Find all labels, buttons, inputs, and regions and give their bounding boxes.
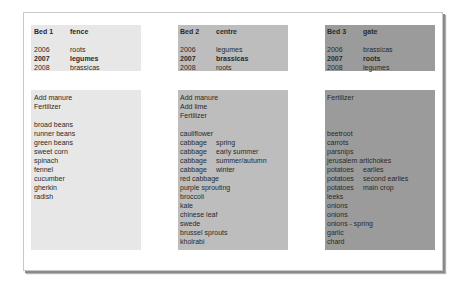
plant-item: swede xyxy=(180,219,288,228)
rotation-row: 2008roots xyxy=(180,63,288,72)
bed-1-header: Bed 1fence 2006roots 2007legumes 2008bra… xyxy=(31,25,141,71)
plant-item: parsnips xyxy=(327,147,435,156)
bed-3-location: gate xyxy=(363,27,377,36)
plant-item: potatoesmain crop xyxy=(327,183,435,192)
plant-item: beetroot xyxy=(327,129,435,138)
plant-item: green beans xyxy=(34,138,141,147)
bed-1-location: fence xyxy=(70,27,88,36)
prep-item: Add lime xyxy=(180,102,288,111)
prep-item: Fertilizer xyxy=(180,111,288,120)
bed-2-title-row: Bed 2centre xyxy=(180,27,288,36)
plant-item: cabbagespring xyxy=(180,138,288,147)
plant-item: leeks xyxy=(327,192,435,201)
plant-item: chard xyxy=(327,237,435,246)
plant-item: onions - spring xyxy=(327,219,435,228)
rotation-row: 2008brassicas xyxy=(34,63,141,72)
rotation-row-current: 2007legumes xyxy=(34,54,141,63)
plant-item: purple sprouting xyxy=(180,183,288,192)
prep-item: Add manure xyxy=(180,93,288,102)
plant-item: cabbagewinter xyxy=(180,165,288,174)
bed-3-name: Bed 3 xyxy=(327,27,363,36)
plant-item: cauliflower xyxy=(180,129,288,138)
bed-3-plants-panel: Fertilizer beetroot carrots parsnips jer… xyxy=(325,90,435,250)
plant-item: kholrabi xyxy=(180,237,288,246)
plant-item: spinach xyxy=(34,156,141,165)
plant-item: onions xyxy=(327,210,435,219)
plant-item: carrots xyxy=(327,138,435,147)
rotation-row: 2006roots xyxy=(34,45,141,54)
plant-item: fennel xyxy=(34,165,141,174)
rotation-row: 2006brassicas xyxy=(327,45,435,54)
prep-item: Fertilizer xyxy=(34,102,141,111)
plant-item: broad beans xyxy=(34,120,141,129)
plant-item: gherkin xyxy=(34,183,141,192)
bed-2-header: Bed 2centre 2006legumes 2007brassicas 20… xyxy=(178,25,288,71)
rotation-row: 2006legumes xyxy=(180,45,288,54)
plant-item: potatoessecond earlies xyxy=(327,174,435,183)
bed-3-title-row: Bed 3gate xyxy=(327,27,435,36)
plant-item: sweet corn xyxy=(34,147,141,156)
bed-2-plants-panel: Add manure Add lime Fertilizer cauliflow… xyxy=(178,90,288,250)
plant-item: kale xyxy=(180,201,288,210)
plant-item: broccoli xyxy=(180,192,288,201)
plant-item: jerusalem artichokes xyxy=(327,156,435,165)
plant-item: garlic xyxy=(327,228,435,237)
plant-item: red cabbage xyxy=(180,174,288,183)
bed-2-name: Bed 2 xyxy=(180,27,216,36)
plant-item: chinese leaf xyxy=(180,210,288,219)
bed-3-header: Bed 3gate 2006brassicas 2007roots 2008le… xyxy=(325,25,435,71)
plant-item: onions xyxy=(327,201,435,210)
bed-1-title-row: Bed 1fence xyxy=(34,27,141,36)
rotation-row-current: 2007brassicas xyxy=(180,54,288,63)
plant-item: potatoesearlies xyxy=(327,165,435,174)
plant-item: cabbageearly summer xyxy=(180,147,288,156)
prep-item: Fertilizer xyxy=(327,93,435,102)
prep-item: Add manure xyxy=(34,93,141,102)
plant-item: brussel sprouts xyxy=(180,228,288,237)
document-page: Bed 1fence 2006roots 2007legumes 2008bra… xyxy=(23,12,443,271)
bed-1-plants-panel: Add manure Fertilizer broad beans runner… xyxy=(31,90,141,250)
plant-item: cucumber xyxy=(34,174,141,183)
rotation-row: 2008legumes xyxy=(327,63,435,72)
bed-2-location: centre xyxy=(216,27,237,36)
plant-item: runner beans xyxy=(34,129,141,138)
plant-item: cabbagesummer/autumn xyxy=(180,156,288,165)
plant-item: radish xyxy=(34,192,141,201)
bed-1-name: Bed 1 xyxy=(34,27,70,36)
rotation-row-current: 2007roots xyxy=(327,54,435,63)
